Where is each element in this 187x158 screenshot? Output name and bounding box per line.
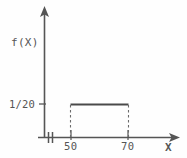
uniform-distribution-figure: f(X) 1/20 50 70 X: [0, 0, 187, 158]
x-tick-label-70: 70: [121, 141, 134, 152]
x-axis-label: X: [165, 142, 172, 153]
y-tick-label-1over20: 1/20: [9, 99, 35, 110]
plot-canvas: [0, 0, 187, 158]
x-tick-label-50: 50: [64, 141, 77, 152]
y-axis-label: f(X): [11, 37, 39, 48]
